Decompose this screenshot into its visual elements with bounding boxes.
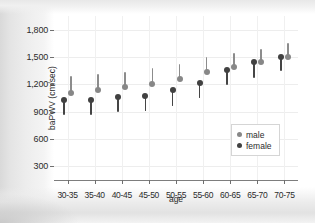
gridline-vertical — [149, 16, 150, 180]
y-tick-label: 1,200 — [26, 79, 48, 89]
data-point — [149, 81, 155, 87]
data-point — [224, 67, 230, 73]
y-tick-mark — [50, 139, 54, 140]
page-top-shade — [0, 0, 315, 14]
data-point — [61, 97, 67, 103]
gridline-vertical — [122, 16, 123, 180]
y-tick-mark — [50, 57, 54, 58]
x-axis-title: age — [54, 194, 298, 204]
y-tick-mark — [50, 166, 54, 167]
legend-label-female: female — [246, 141, 272, 151]
gridline-vertical — [284, 16, 285, 180]
legend-item-male: male — [237, 129, 272, 140]
legend-item-female: female — [237, 140, 272, 151]
x-tick-mark — [284, 180, 285, 184]
data-point — [204, 69, 210, 75]
data-point — [285, 54, 291, 60]
gridline-vertical — [68, 16, 69, 180]
data-point — [251, 59, 257, 65]
plot-area: 3006009001,2001,5001,800 30-3535-4040-45… — [54, 16, 298, 180]
data-point — [95, 87, 101, 93]
data-point — [231, 64, 237, 70]
legend-dot-female-icon — [237, 143, 242, 148]
y-tick-label: 900 — [34, 107, 48, 117]
data-point — [88, 97, 94, 103]
data-point — [122, 84, 128, 90]
data-point — [170, 87, 176, 93]
gridline-vertical — [176, 16, 177, 180]
data-point — [258, 59, 264, 65]
x-tick-mark — [230, 180, 231, 184]
y-axis-title: baPWV (cm/sec) — [47, 66, 57, 130]
x-tick-mark — [176, 180, 177, 184]
data-point — [278, 54, 284, 60]
y-tick-label: 1,800 — [26, 25, 48, 35]
legend-label-male: male — [246, 130, 264, 140]
data-point — [115, 94, 121, 100]
x-tick-mark — [122, 180, 123, 184]
chart-figure: 3006009001,2001,5001,800 30-3535-4040-45… — [0, 0, 315, 223]
data-point — [68, 90, 74, 96]
legend-dot-male-icon — [237, 132, 242, 137]
y-tick-label: 300 — [34, 161, 48, 171]
data-point — [142, 93, 148, 99]
data-point — [197, 80, 203, 86]
gridline-vertical — [95, 16, 96, 180]
chart-legend: male female — [231, 124, 280, 156]
x-tick-mark — [149, 180, 150, 184]
y-tick-mark — [50, 30, 54, 31]
x-tick-mark — [203, 180, 204, 184]
data-point — [177, 76, 183, 82]
y-tick-label: 600 — [34, 134, 48, 144]
y-tick-label: 1,500 — [26, 52, 48, 62]
x-tick-mark — [95, 180, 96, 184]
x-tick-mark — [68, 180, 69, 184]
x-tick-mark — [257, 180, 258, 184]
gridline-vertical — [203, 16, 204, 180]
